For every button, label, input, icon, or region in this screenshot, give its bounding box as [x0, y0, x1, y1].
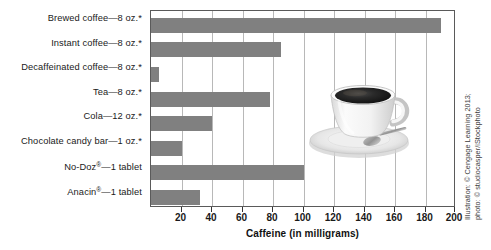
credit-line-illustration: Illustration: © Cengage Learning 2013; — [463, 10, 473, 220]
bar-instant-coffee — [151, 42, 281, 57]
category-label-decaffeinated-coffee: Decaffeinated coffee—8 oz.* — [0, 62, 142, 72]
category-label-brewed-coffee: Brewed coffee—8 oz.* — [0, 13, 142, 23]
category-label-column: Brewed coffee—8 oz.* Instant coffee—8 oz… — [0, 10, 146, 207]
xticklabel-160: 160 — [386, 212, 403, 223]
bar-decaffeinated-coffee — [151, 67, 159, 82]
xticklabel-140: 140 — [355, 212, 372, 223]
bar-no-doz — [151, 165, 304, 180]
bar-tea — [151, 92, 270, 107]
category-label-tea: Tea—8 oz.* — [0, 87, 142, 97]
category-label-cola: Cola—12 oz.* — [0, 111, 142, 121]
xticklabel-20: 20 — [175, 212, 186, 223]
category-label-anacin: Anacin®—1 tablet — [0, 185, 142, 197]
caffeine-bar-chart-figure: Brewed coffee—8 oz.* Instant coffee—8 oz… — [0, 0, 491, 250]
credit-block: Illustration: © Cengage Learning 2013; p… — [455, 0, 491, 250]
xticklabel-60: 60 — [236, 212, 247, 223]
bar-brewed-coffee — [151, 18, 441, 33]
xticklabel-180: 180 — [416, 212, 433, 223]
category-label-chocolate-candy-bar: Chocolate candy bar—1 oz.* — [0, 136, 142, 146]
category-label-no-doz: No-Doz®—1 tablet — [0, 160, 142, 172]
gridline-180 — [426, 11, 427, 206]
bar-chocolate-candy-bar — [151, 141, 182, 156]
category-label-instant-coffee: Instant coffee—8 oz.* — [0, 38, 142, 48]
xticklabel-80: 80 — [266, 212, 277, 223]
xticklabel-100: 100 — [294, 212, 311, 223]
plot-area — [150, 10, 455, 207]
bar-cola — [151, 116, 212, 131]
xticklabel-120: 120 — [325, 212, 342, 223]
bar-anacin — [151, 190, 200, 205]
xticklabel-40: 40 — [205, 212, 216, 223]
x-axis-title: Caffeine (in milligrams) — [150, 228, 455, 239]
x-axis-tick-labels: 20 40 60 80 100 120 140 160 180 200 — [150, 212, 455, 226]
coffee-cup-photo — [303, 69, 421, 167]
credit-line-photo: photo: © studiocasper/iStockphoto — [473, 10, 483, 220]
